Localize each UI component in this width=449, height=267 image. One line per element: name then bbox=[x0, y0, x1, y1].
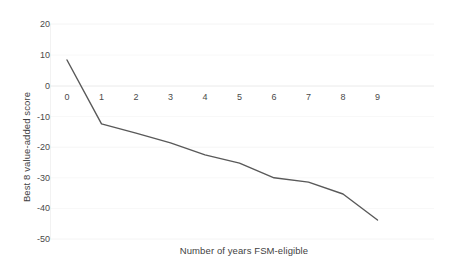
x-tick-label: 5 bbox=[228, 92, 252, 102]
x-tick-label: 0 bbox=[55, 92, 79, 102]
x-axis-tick-labels: 0 1 2 3 4 5 6 7 8 9 bbox=[0, 0, 449, 267]
chart-container: 20 10 0 -10 -20 -30 -40 -50 0 1 2 3 4 5 … bbox=[0, 0, 449, 267]
x-tick-label: 8 bbox=[331, 92, 355, 102]
x-tick-label: 9 bbox=[366, 92, 390, 102]
y-axis-title: Best 8 value-added score bbox=[19, 52, 35, 242]
x-tick-label: 6 bbox=[262, 92, 286, 102]
x-axis-title: Number of years FSM-eligible bbox=[49, 245, 439, 257]
x-tick-label: 2 bbox=[124, 92, 148, 102]
x-tick-label: 4 bbox=[193, 92, 217, 102]
x-tick-label: 7 bbox=[297, 92, 321, 102]
x-tick-label: 1 bbox=[90, 92, 114, 102]
x-tick-label: 3 bbox=[159, 92, 183, 102]
